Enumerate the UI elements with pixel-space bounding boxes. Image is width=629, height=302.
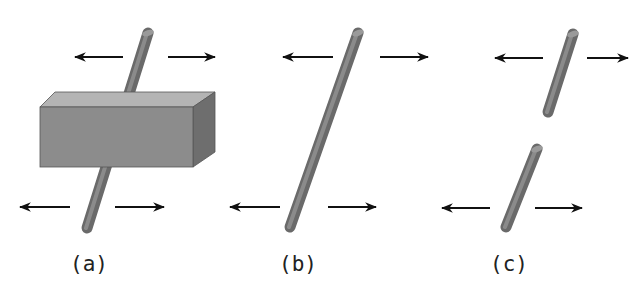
block <box>40 92 215 167</box>
panel-label-b: (b) <box>279 254 317 275</box>
panel-c <box>442 29 628 227</box>
rod-c-upper <box>547 29 580 112</box>
panel-a <box>20 28 215 228</box>
panel-label-a: (a) <box>70 254 108 275</box>
panel-b <box>230 28 428 227</box>
panel-label-c: (c) <box>490 254 528 275</box>
rod-c-lower <box>505 144 544 227</box>
